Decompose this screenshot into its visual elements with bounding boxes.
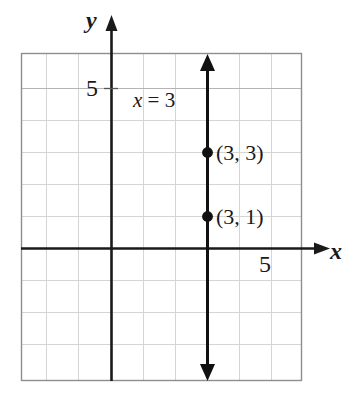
equation-relation: = [142,88,164,112]
coordinate-plane [0,0,361,396]
y-axis-arrow-icon [106,15,118,31]
equation-value: 3 [165,88,176,112]
y-axis-tick-label-5: 5 [86,76,98,100]
equation-variable: x [133,88,142,112]
x-axis-label: x [330,239,342,263]
x-axis-arrow-icon [314,243,330,255]
point-label-3-1: (3, 1) [216,206,264,228]
data-point-3-1 [202,211,213,222]
y-axis-label: y [86,8,97,32]
line-equation-label: x = 3 [133,90,175,111]
point-label-3-3: (3, 3) [216,142,264,164]
x-axis-tick-label-5: 5 [259,252,271,276]
data-point-3-3 [202,147,213,158]
graph-screenshot: y x 5 5 x = 3 (3, 3) (3, 1) [0,0,361,396]
